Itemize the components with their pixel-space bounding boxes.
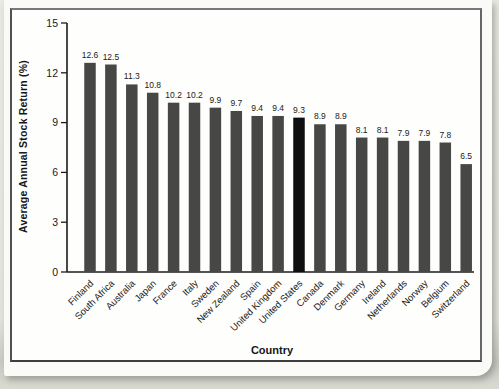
bar bbox=[210, 108, 222, 272]
figure-card: Average Annual Stock Return (%) 03691215… bbox=[4, 0, 492, 376]
page-background: Average Annual Stock Return (%) 03691215… bbox=[0, 0, 499, 389]
bar bbox=[314, 124, 326, 272]
bar-value-label: 9.7 bbox=[230, 98, 242, 108]
bar bbox=[84, 63, 96, 272]
bar bbox=[398, 141, 410, 272]
bar bbox=[377, 138, 389, 272]
bar bbox=[168, 103, 180, 272]
bar-value-label: 9.4 bbox=[251, 103, 263, 113]
bar-value-label: 7.8 bbox=[439, 130, 451, 140]
bar-value-label: 8.9 bbox=[314, 111, 326, 121]
chart-frame: Average Annual Stock Return (%) 03691215… bbox=[10, 8, 482, 362]
bar-value-label: 8.1 bbox=[377, 125, 389, 135]
bar bbox=[147, 93, 159, 272]
bar bbox=[356, 138, 368, 272]
bar bbox=[105, 65, 117, 273]
bar-value-label: 9.9 bbox=[209, 95, 221, 105]
bar bbox=[293, 118, 305, 272]
bar-value-label: 11.3 bbox=[124, 71, 140, 81]
bar-value-label: 10.8 bbox=[144, 80, 161, 90]
bar-value-label: 10.2 bbox=[186, 90, 203, 100]
bar-value-label: 10.2 bbox=[165, 90, 182, 100]
bar bbox=[419, 141, 431, 272]
y-tick-label: 12 bbox=[46, 67, 58, 79]
bar-value-label: 9.3 bbox=[293, 105, 305, 115]
bar-value-label: 12.5 bbox=[103, 52, 120, 62]
bar-value-label: 7.9 bbox=[418, 128, 430, 138]
bar bbox=[231, 111, 243, 272]
bar-value-label: 6.5 bbox=[460, 151, 472, 161]
bar bbox=[126, 84, 138, 272]
bar bbox=[460, 164, 472, 272]
bar-value-label: 7.9 bbox=[398, 128, 410, 138]
bar-value-label: 8.1 bbox=[356, 125, 368, 135]
bar bbox=[335, 124, 347, 272]
bar-value-label: 9.4 bbox=[272, 103, 284, 113]
y-tick-label: 3 bbox=[52, 216, 58, 228]
bar-chart: 0369121512.6Finland12.5South Africa11.3A… bbox=[12, 10, 480, 360]
x-axis-title: Country bbox=[67, 344, 477, 356]
bar bbox=[272, 116, 284, 272]
bar-value-label: 8.9 bbox=[335, 111, 347, 121]
y-tick-label: 0 bbox=[52, 266, 58, 278]
y-axis-title: Average Annual Stock Return (%) bbox=[14, 10, 32, 284]
y-tick-label: 6 bbox=[52, 166, 58, 178]
y-tick-label: 15 bbox=[46, 17, 58, 29]
bar-value-label: 12.6 bbox=[82, 50, 99, 60]
bar bbox=[189, 103, 201, 272]
bar bbox=[251, 116, 263, 272]
bar bbox=[440, 143, 452, 272]
y-tick-label: 9 bbox=[52, 116, 58, 128]
